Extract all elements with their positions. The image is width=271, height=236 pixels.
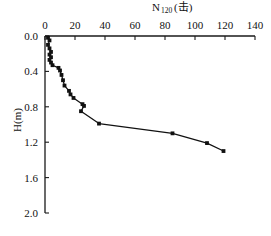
y-tick-label: 2.0 [24,207,38,219]
x-tick-label: 80 [160,19,172,31]
data-point-marker [205,141,209,145]
data-point-marker [79,109,83,113]
x-axis-ticks: 020406080100120140 [42,19,264,40]
penetration-depth-chart: N 120 (击) H (m) 020406080100120140 0.00.… [0,0,271,236]
y-tick-label: 0.0 [24,30,38,42]
data-point-marker [63,84,67,88]
data-point-marker [97,122,101,126]
data-point-marker [51,63,55,67]
x-tick-label: 120 [217,19,234,31]
x-tick-label: 0 [42,19,48,31]
y-axis-title-unit: (m) [11,108,24,124]
chart-container: N 120 (击) H (m) 020406080100120140 0.00.… [0,0,271,236]
x-axis-title-unit: (击) [174,1,193,14]
data-point-marker [222,149,226,153]
x-axis-title-main: N [152,1,160,13]
data-point-marker [67,89,71,93]
y-axis-title-main: H [11,124,23,132]
chart-title-x: N 120 (击) [152,1,193,15]
chart-title-y: H (m) [11,108,24,132]
data-point-marker [82,104,86,108]
data-point-marker [48,39,52,43]
series-line-n120 [48,38,224,151]
y-tick-label: 0.8 [24,101,38,113]
data-point-marker [171,131,175,135]
y-tick-label: 1.6 [24,172,38,184]
series-markers-n120 [46,36,225,153]
data-point-marker [60,73,64,77]
x-axis-title-subscript: 120 [161,6,173,15]
data-point-marker [48,46,52,50]
data-point-marker [58,69,62,73]
x-tick-label: 20 [70,19,82,31]
data-point-marker [61,78,65,82]
data-point-marker [46,43,50,47]
data-point-marker [69,93,73,97]
data-point-marker [72,96,76,100]
x-tick-label: 40 [100,19,112,31]
x-tick-label: 100 [187,19,204,31]
x-tick-label: 140 [247,19,264,31]
y-tick-label: 0.4 [24,65,38,77]
x-tick-label: 60 [130,19,142,31]
y-tick-label: 1.2 [24,136,38,148]
